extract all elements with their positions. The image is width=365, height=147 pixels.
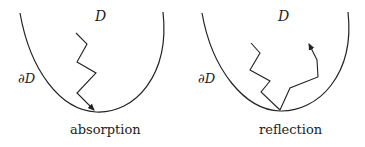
boundary-label: ∂D (18, 71, 36, 86)
diagram-canvas: D ∂D absorption D ∂D reflection (0, 0, 365, 147)
absorption-panel: D ∂D absorption (18, 8, 164, 137)
domain-label: D (277, 8, 289, 24)
boundary-curve (202, 12, 349, 111)
boundary-curve (20, 12, 164, 112)
random-walk-path (76, 33, 96, 110)
incoming-walk-path (250, 43, 280, 110)
reflected-walk-path (280, 44, 318, 110)
boundary-label: ∂D (198, 71, 216, 86)
reflection-panel: D ∂D reflection (198, 8, 349, 137)
caption-absorption: absorption (70, 122, 141, 137)
caption-reflection: reflection (259, 122, 323, 137)
domain-label: D (94, 8, 106, 24)
